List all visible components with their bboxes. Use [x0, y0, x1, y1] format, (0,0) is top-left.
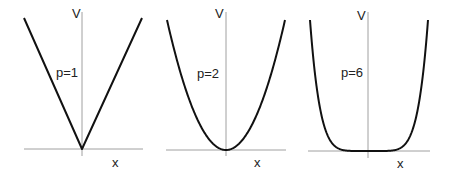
x-axis-label: x: [397, 156, 404, 171]
p-annotation: p=1: [56, 65, 78, 80]
p-annotation: p=6: [341, 65, 363, 80]
v-axis-label: V: [215, 6, 224, 21]
v-axis-label: V: [357, 8, 366, 23]
x-axis-label: x: [254, 155, 261, 170]
panel-p1: V x p=1: [24, 6, 143, 170]
v-axis-label: V: [72, 6, 81, 21]
x-axis-label: x: [112, 155, 119, 170]
curve-p6: [310, 20, 428, 151]
panel-p6: V x p=6: [308, 8, 430, 171]
curve-p1: [24, 18, 142, 149]
p-annotation: p=2: [197, 66, 219, 81]
panel-p2: V x p=2: [166, 6, 286, 170]
potential-plots: V x p=1 V x p=2 V x p=6: [0, 0, 451, 173]
